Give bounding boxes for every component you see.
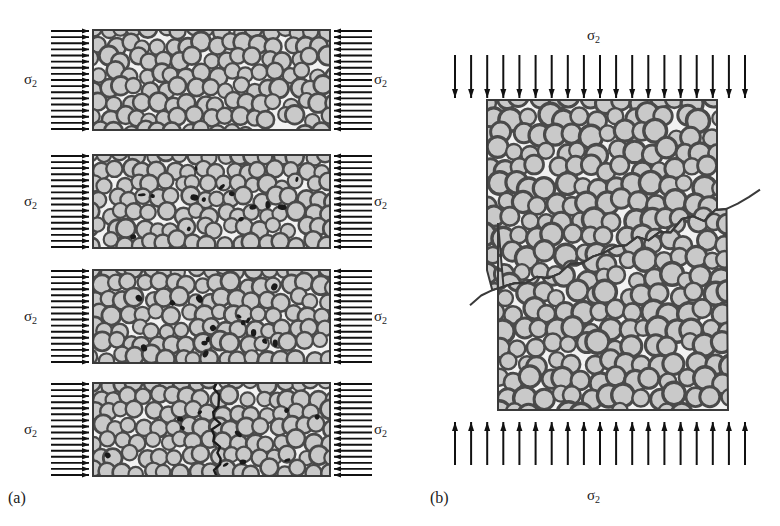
grain (560, 336, 576, 352)
sigma-glyph: σ (587, 27, 595, 43)
panel-caption-b: (b) (430, 489, 449, 507)
load-arrow-down (726, 55, 732, 98)
load-arrow-down (629, 55, 635, 98)
load-arrow-up (452, 422, 458, 465)
grain (672, 403, 692, 423)
load-arrow-up (468, 422, 474, 465)
grain (656, 137, 677, 158)
grain (500, 353, 516, 369)
grain (716, 251, 733, 268)
load-arrow-down (581, 55, 587, 98)
load-arrow-down (549, 55, 555, 98)
load-arrow-down (661, 55, 667, 98)
load-arrow-up (613, 422, 619, 465)
grain (639, 171, 662, 194)
load-arrow-up (629, 422, 635, 465)
grain (534, 241, 554, 261)
grain (632, 390, 649, 407)
load-arrow-down (597, 55, 603, 98)
load-arrow-down (645, 55, 651, 98)
grain (659, 404, 675, 420)
grain (571, 108, 589, 126)
grain (488, 401, 511, 424)
load-arrow-up (710, 422, 716, 465)
figure-root: σ2σ2σ2σ2σ2σ2σ2σ2σ2σ2(a)(b) (0, 0, 780, 526)
grain (698, 156, 717, 175)
grain (611, 156, 629, 174)
grain (711, 332, 732, 353)
panel-b-canvas (0, 0, 780, 526)
grain (712, 111, 727, 126)
grain (685, 283, 703, 301)
load-arrow-down (500, 55, 506, 98)
grain (722, 389, 738, 405)
grain (487, 137, 508, 158)
load-arrow-up (678, 422, 684, 465)
grain (629, 192, 648, 211)
grain (606, 300, 625, 319)
sigma-label-bottom: σ2 (587, 488, 600, 505)
load-arrow-up (581, 422, 587, 465)
load-arrow-up (565, 422, 571, 465)
grain (663, 382, 685, 404)
load-arrow-down (484, 55, 490, 98)
load-arrow-up (500, 422, 506, 465)
load-arrow-up (694, 422, 700, 465)
load-arrow-up (533, 422, 539, 465)
sigma-label-top: σ2 (587, 28, 600, 45)
grain (501, 207, 519, 225)
grain (570, 403, 593, 426)
grain (544, 334, 562, 352)
load-arrow-down (678, 55, 684, 98)
grain (519, 366, 540, 387)
load-arrow-up (516, 422, 522, 465)
load-arrow-up (726, 422, 732, 465)
grain (639, 368, 659, 388)
top-load-arrows (452, 55, 748, 98)
load-arrow-down (710, 55, 716, 98)
load-arrow-down (516, 55, 522, 98)
grain (567, 280, 588, 301)
load-arrow-down (613, 55, 619, 98)
panel-caption-a: (a) (8, 489, 26, 507)
grain (712, 180, 728, 196)
load-arrow-up (597, 422, 603, 465)
grain (700, 387, 720, 407)
grain (530, 320, 547, 337)
load-arrow-up (661, 422, 667, 465)
sigma-glyph: σ (587, 487, 595, 503)
load-arrow-down (452, 55, 458, 98)
sigma-subscript: 2 (595, 494, 600, 505)
load-arrow-down (565, 55, 571, 98)
grain (527, 339, 545, 357)
load-arrow-down (742, 55, 748, 98)
load-arrow-up (484, 422, 490, 465)
load-arrow-down (533, 55, 539, 98)
grain (564, 225, 582, 243)
load-arrow-up (549, 422, 555, 465)
grain (525, 155, 544, 174)
bottom-load-arrows (452, 422, 748, 465)
sigma-subscript: 2 (595, 34, 600, 45)
load-arrow-up (742, 422, 748, 465)
load-arrow-down (468, 55, 474, 98)
load-arrow-down (694, 55, 700, 98)
grain (693, 299, 711, 317)
load-arrow-up (645, 422, 651, 465)
